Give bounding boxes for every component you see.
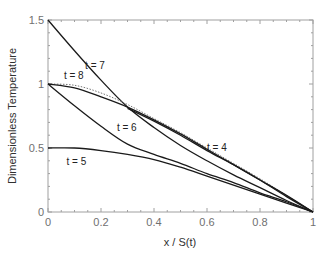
x-tick-label: 0.2 — [93, 216, 108, 228]
tick-labels: 00.20.40.60.8100.511.5 — [29, 14, 316, 228]
series-line-t-6 — [48, 84, 313, 212]
annotation-label: t = 8 — [64, 70, 84, 81]
x-tick-label: 0.8 — [252, 216, 267, 228]
x-axis-label: x / S(t) — [164, 236, 196, 248]
x-tick-label: 0.4 — [146, 216, 161, 228]
series-line-t-8 — [48, 84, 313, 212]
x-tick-label: 0 — [45, 216, 51, 228]
y-tick-label: 1.5 — [29, 14, 44, 26]
chart: 00.20.40.60.8100.511.5 t = 7t = 8t = 6t … — [0, 0, 333, 256]
y-tick-label: 0.5 — [29, 142, 44, 154]
series-line-t-8-solid — [48, 84, 313, 212]
y-tick-label: 1 — [38, 78, 44, 90]
series-lines — [48, 20, 313, 212]
x-tick-label: 1 — [310, 216, 316, 228]
x-tick-label: 0.6 — [199, 216, 214, 228]
series-line-t-5 — [48, 148, 313, 212]
annotations: t = 7t = 8t = 6t = 5t = 4 — [64, 60, 227, 167]
annotation-label: t = 5 — [67, 156, 87, 167]
annotation-label: t = 6 — [117, 122, 137, 133]
y-axis-label: Dimensionless Temperature — [6, 48, 18, 184]
annotation-label: t = 4 — [207, 142, 227, 153]
annotation-label: t = 7 — [85, 60, 105, 71]
y-tick-label: 0 — [38, 206, 44, 218]
